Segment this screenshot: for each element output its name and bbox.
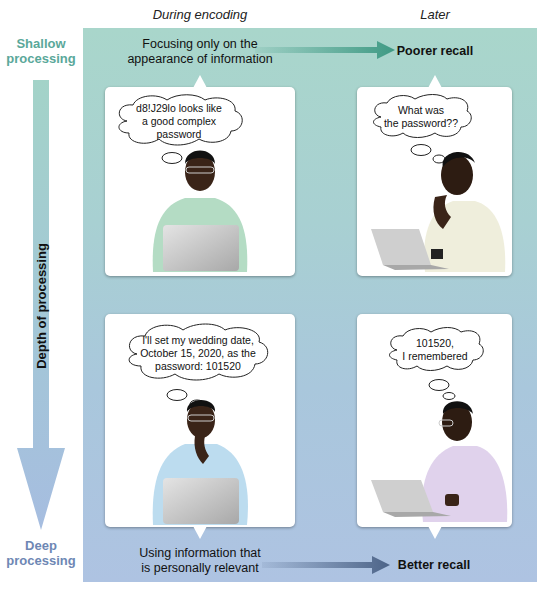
depth-of-processing-label: Depth of processing [34, 243, 49, 369]
person-remembering-illustration [365, 394, 510, 524]
better-recall-label: Better recall [388, 558, 480, 573]
shallow-later-card: What was the password?? [357, 87, 512, 276]
thought-bubble: d8!J29lo looks like a good complex passw… [113, 93, 245, 149]
thought-bubble: I'll set my wedding date, October 15, 20… [123, 322, 273, 384]
column-header-during-encoding: During encoding [130, 7, 270, 22]
deep-later-card: 101520, I remembered [357, 314, 512, 527]
person-thinking-illustration [365, 137, 510, 272]
deep-encoding-caption: Using information that is personally rel… [125, 546, 275, 576]
person-typing-illustration [145, 142, 255, 272]
person-pondering-illustration [145, 392, 255, 525]
shallow-processing-label: Shallow processing [0, 36, 82, 66]
deep-processing-label: Deep processing [0, 538, 82, 568]
thought-bubble: What was the password?? [369, 93, 473, 141]
card-pointer [193, 526, 207, 539]
shallow-encoding-card: d8!J29lo looks like a good complex passw… [105, 87, 295, 276]
shallow-flow-arrow-icon [255, 40, 395, 60]
card-pointer [193, 75, 207, 88]
column-header-later: Later [400, 7, 470, 22]
card-pointer [428, 75, 442, 88]
thought-bubble: 101520, I remembered [385, 326, 485, 374]
card-pointer [428, 526, 442, 539]
deep-flow-arrow-icon [262, 555, 390, 575]
poorer-recall-label: Poorer recall [390, 44, 480, 59]
deep-encoding-card: I'll set my wedding date, October 15, 20… [105, 314, 295, 527]
